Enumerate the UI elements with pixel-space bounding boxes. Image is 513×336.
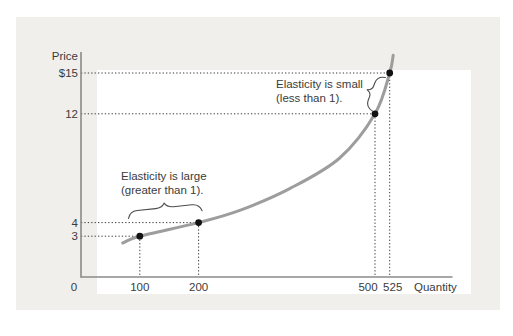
annotation-line: Elasticity is large xyxy=(121,169,207,183)
price-tick-12: 12 xyxy=(30,108,78,121)
annotation-elasticity-small: Elasticity is small (less than 1). xyxy=(276,77,363,105)
point-q200-p4 xyxy=(195,219,202,226)
y-axis-title: Price xyxy=(30,50,78,63)
annotation-line: (less than 1). xyxy=(276,91,363,105)
quantity-tick-200: 200 xyxy=(177,281,221,294)
figure-page: 3100420012500$15525 Price 0 Quantity Ela… xyxy=(0,0,513,336)
quantity-tick-100: 100 xyxy=(118,281,162,294)
price-tick-15: $15 xyxy=(30,67,78,80)
annotation-line: Elasticity is small xyxy=(276,77,363,91)
annotation-elasticity-large: Elasticity is large (greater than 1). xyxy=(121,169,207,197)
quantity-tick-525: 525 xyxy=(371,281,415,294)
price-tick-3: 3 xyxy=(30,230,78,243)
price-tick-4: 4 xyxy=(30,217,78,230)
curly-brace-elastic-region xyxy=(127,199,202,218)
origin-tick-label: 0 xyxy=(52,281,96,294)
point-q100-p3 xyxy=(136,233,143,240)
curly-brace-inelastic-region xyxy=(360,73,385,111)
x-axis-title: Quantity xyxy=(414,281,457,294)
point-q525-p15 xyxy=(386,70,393,77)
annotation-line: (greater than 1). xyxy=(121,183,207,197)
